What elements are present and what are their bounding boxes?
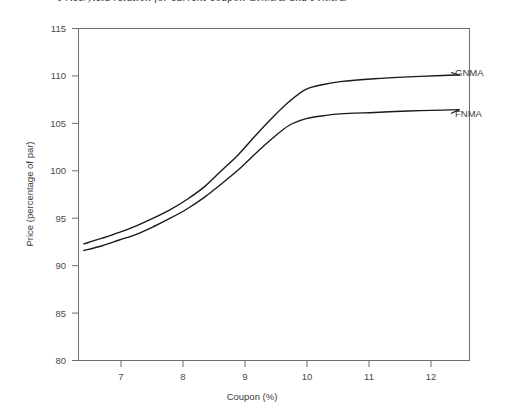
y-tick-label-105: 105 xyxy=(50,118,66,129)
x-axis-title: Coupon (%) xyxy=(227,391,278,402)
y-tick-label-80: 80 xyxy=(55,355,66,366)
y-tick-label-95: 95 xyxy=(55,213,66,224)
plot-frame xyxy=(79,29,470,361)
x-tick-label-10: 10 xyxy=(302,371,313,382)
x-tick-label-11: 11 xyxy=(364,371,374,382)
y-tick-label-100: 100 xyxy=(50,165,66,176)
price-yield-chart-figure: Price/yield relation for current-coupon … xyxy=(0,0,507,418)
series-label-fnma: FNMA xyxy=(455,108,483,119)
y-axis-title: Price (percentage of par) xyxy=(24,141,35,246)
x-tick-label-12: 12 xyxy=(426,371,437,382)
x-tick-label-8: 8 xyxy=(180,371,185,382)
y-tick-label-115: 115 xyxy=(51,23,66,34)
x-axis-ticks xyxy=(121,361,431,368)
series-label-gnma: GNMA xyxy=(455,67,484,78)
y-axis-ticks xyxy=(72,29,79,361)
y-tick-label-110: 110 xyxy=(51,70,66,81)
y-tick-label-85: 85 xyxy=(55,308,66,319)
chart-plot-area: 115 110 105 100 95 90 85 80 7 8 9 10 11 … xyxy=(0,0,507,418)
y-tick-label-90: 90 xyxy=(55,260,66,271)
y-axis-tick-labels: 115 110 105 100 95 90 85 80 xyxy=(50,23,66,366)
x-tick-label-7: 7 xyxy=(118,371,123,382)
x-tick-label-9: 9 xyxy=(242,371,247,382)
x-axis-tick-labels: 7 8 9 10 11 12 xyxy=(118,371,436,382)
